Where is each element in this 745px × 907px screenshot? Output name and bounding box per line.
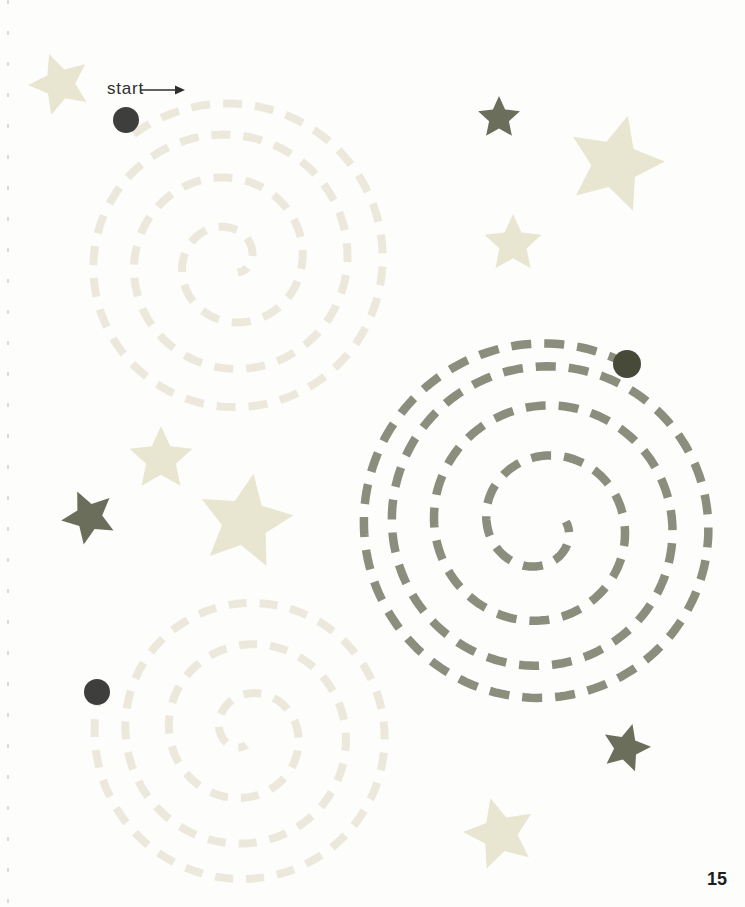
star-olive-mid-left-icon (61, 492, 113, 545)
star-light-big-top-right-icon (573, 116, 665, 211)
start-label: start (107, 79, 144, 99)
bottom-left-spiral-start-dot (84, 679, 110, 705)
star-light-upper-middle-icon (485, 214, 542, 268)
star-light-mid-left-icon (130, 426, 193, 486)
star-light-bottom-icon (463, 798, 531, 868)
start-arrow-head-icon (175, 86, 185, 95)
worksheet-page: start 15 (0, 0, 745, 907)
top-left-spiral-dashed-path (93, 104, 382, 408)
star-olive-top-icon (478, 96, 520, 136)
page-number: 15 (707, 869, 727, 890)
star-olive-bottom-right-icon (605, 724, 651, 771)
bottom-left-spiral-dashed-path (95, 603, 385, 879)
star-light-top-left-corner-icon (28, 54, 87, 115)
top-left-spiral-start-dot (113, 107, 139, 133)
right-spiral-start-dot (613, 350, 641, 378)
tracing-canvas (0, 0, 745, 907)
right-spiral-dashed-path (364, 343, 708, 698)
star-light-big-middle-icon (202, 474, 294, 566)
